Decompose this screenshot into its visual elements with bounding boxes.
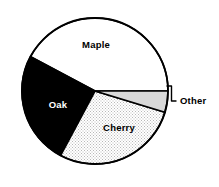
pie-chart: Maple Oak Cherry Other (0, 0, 219, 187)
pie-label-maple: Maple (82, 39, 110, 50)
pie-label-cherry: Cherry (103, 122, 135, 133)
pie-label-other: Other (180, 95, 206, 106)
pie-chart-canvas: Maple Oak Cherry Other (0, 0, 219, 187)
pie-label-oak: Oak (49, 99, 68, 110)
